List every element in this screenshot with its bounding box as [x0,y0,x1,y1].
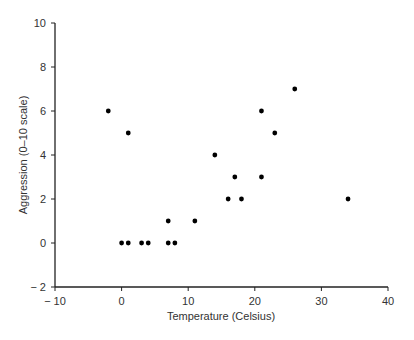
data-point [346,197,351,202]
y-tick-label: 8 [40,61,46,73]
data-point [212,153,217,158]
data-point [126,241,131,246]
x-tick-label: 20 [249,295,261,307]
data-points [106,87,351,246]
data-point [292,87,297,92]
data-point [166,241,171,246]
x-tick-label: 0 [119,295,125,307]
data-point [272,131,277,136]
data-point [192,219,197,224]
data-point [146,241,151,246]
x-axis-ticks: − 10010203040 [44,287,394,307]
data-point [106,109,111,114]
x-tick-label: 40 [382,295,394,307]
y-axis-label: Aggression (0–10 scale) [17,96,29,215]
y-tick-label: 10 [34,17,46,29]
y-tick-label: − 2 [30,281,46,293]
axes [55,23,388,287]
x-tick-label: 30 [315,295,327,307]
y-axis-ticks: − 20246810 [30,17,55,293]
data-point [259,109,264,114]
data-point [259,175,264,180]
y-tick-label: 0 [40,237,46,249]
data-point [126,131,131,136]
data-point [139,241,144,246]
x-tick-label: 10 [182,295,194,307]
x-axis-label: Temperature (Celsius) [167,310,275,322]
data-point [226,197,231,202]
data-point [172,241,177,246]
data-point [232,175,237,180]
data-point [239,197,244,202]
data-point [119,241,124,246]
y-tick-label: 2 [40,193,46,205]
x-tick-label: − 10 [44,295,66,307]
scatter-chart: − 10010203040 − 20246810 Temperature (Ce… [0,0,414,340]
y-tick-label: 6 [40,105,46,117]
data-point [166,219,171,224]
y-tick-label: 4 [40,149,46,161]
